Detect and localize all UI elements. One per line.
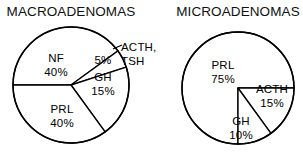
pie-chart-figure: MACROADENOMAS NF 40% ACTH, TSH 5% GH 15%… xyxy=(0,0,303,152)
pie-label-nf: NF xyxy=(48,52,64,64)
chart-title-macroadenomas: MACROADENOMAS xyxy=(7,4,136,19)
pie-value-gh: 15% xyxy=(91,85,115,97)
pie-value-prl-micro: 75% xyxy=(211,73,235,85)
pie-value-nf: 40% xyxy=(44,66,68,78)
pie-label-gh: GH xyxy=(94,71,112,83)
chart-macroadenomas: MACROADENOMAS NF 40% ACTH, TSH 5% GH 15%… xyxy=(7,4,157,143)
chart-title-microadenomas: MICROADENOMAS xyxy=(176,4,300,19)
pie-value-acth-micro: 15% xyxy=(260,97,284,109)
pie-value-gh-micro: 10% xyxy=(229,129,253,141)
chart-microadenomas: MICROADENOMAS PRL 75% ACTH 15% GH 10% xyxy=(176,4,300,144)
pie-label-prl-micro: PRL xyxy=(212,59,235,71)
pie-label-acth-micro: ACTH xyxy=(256,83,288,95)
pie-label-prl: PRL xyxy=(51,103,74,115)
pie-value-prl: 40% xyxy=(50,117,74,129)
pie-label-acth-tsh-line2: TSH xyxy=(121,55,145,67)
pie-value-acth-tsh: 5% xyxy=(94,54,111,66)
pie-label-gh-micro: GH xyxy=(232,115,250,127)
pie-label-acth-tsh: ACTH, xyxy=(121,41,157,53)
